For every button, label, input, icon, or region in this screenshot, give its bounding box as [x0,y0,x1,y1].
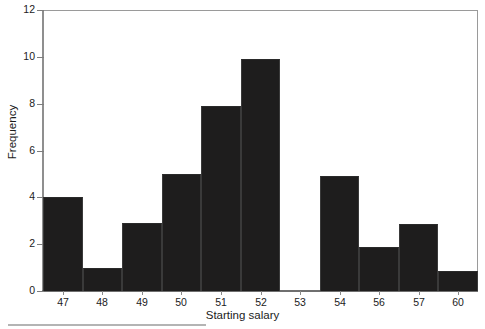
y-axis-tick-label: 2 [12,238,35,249]
histogram-bar [162,174,202,291]
bars-group [43,10,478,291]
x-axis-tick-label: 51 [208,296,234,308]
histogram-bar [201,106,241,291]
x-axis-tick-label: 48 [89,296,115,308]
x-axis-tick [419,291,420,295]
x-axis-tick [221,291,222,295]
histogram-figure: 024681012 4748495051525354565760 Startin… [0,0,485,329]
histogram-bar [43,197,83,291]
histogram-bar [320,176,360,291]
histogram-bar [399,224,439,291]
x-axis-tick-label: 47 [50,296,76,308]
x-axis-tick [300,291,301,295]
y-axis-title: Frequency [6,92,18,172]
histogram-bar [83,268,123,291]
y-axis-tick-label: 4 [12,191,35,202]
x-axis-tick-label: 60 [445,296,471,308]
y-axis-tick-label: 10 [12,51,35,62]
x-axis-title: Starting salary [0,309,485,321]
x-axis-tick-label: 53 [287,296,313,308]
x-axis-tick [142,291,143,295]
histogram-bar [438,271,478,291]
x-axis-tick [458,291,459,295]
x-axis-tick-label: 49 [129,296,155,308]
x-axis-tick-label: 52 [248,296,274,308]
x-axis-tick [340,291,341,295]
y-axis-tick-label: 0 [12,285,35,296]
y-axis-tick [37,291,44,292]
x-axis-tick [261,291,262,295]
y-axis-tick-label: 12 [12,4,35,15]
x-axis-tick-label: 50 [168,296,194,308]
x-axis-tick [102,291,103,295]
x-axis-tick-label: 54 [327,296,353,308]
histogram-bar [359,247,399,291]
histogram-bar [241,59,281,291]
x-axis-tick [63,291,64,295]
x-axis-tick-label: 56 [366,296,392,308]
x-axis-tick-label: 57 [406,296,432,308]
page-edge-rule [8,324,206,326]
x-axis-tick [379,291,380,295]
histogram-bar [122,223,162,291]
x-axis-tick [181,291,182,295]
